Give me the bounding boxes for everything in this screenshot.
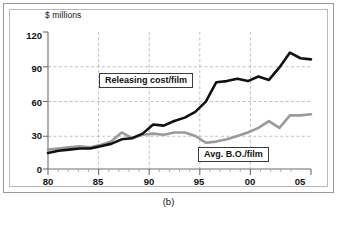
figure-panel: $ millions 120 90 60 30 0 80 85 90 95 00… [0, 0, 337, 226]
plot-area [4, 4, 335, 194]
annotation-releasing-cost: Releasing cost/film [99, 73, 193, 88]
line-chart: $ millions 120 90 60 30 0 80 85 90 95 00… [4, 4, 335, 194]
chart-frame: $ millions 120 90 60 30 0 80 85 90 95 00… [3, 3, 334, 193]
figure-caption: (b) [0, 196, 337, 207]
annotation-avg-bo: Avg. B.O./film [198, 147, 269, 162]
series-line-releasing-cost-per-film [48, 53, 311, 153]
y-axis-ticks [43, 32, 48, 169]
